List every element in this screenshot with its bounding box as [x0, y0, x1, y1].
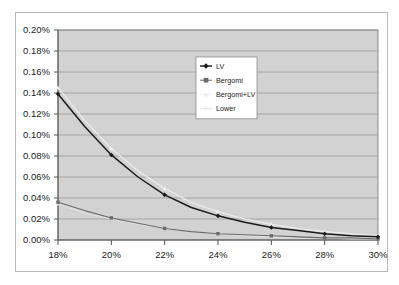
chart-legend: LVBergomiBergomi+LVLower — [196, 57, 257, 119]
y-axis-tick-label: 0.10% — [23, 129, 50, 140]
y-axis-tick-labels: 0.00%0.02%0.04%0.06%0.08%0.10%0.12%0.14%… — [23, 24, 50, 245]
series-data-point — [323, 236, 326, 239]
legend-label: Lower — [216, 104, 236, 113]
x-axis-tick-labels: 18%20%22%24%26%28%30% — [48, 249, 388, 260]
legend-label: Bergomi+LV — [216, 90, 255, 99]
legend-label: Bergomi — [216, 76, 243, 85]
series-data-point — [56, 201, 59, 204]
x-axis-tick-label: 18% — [48, 249, 68, 260]
x-axis-tick-label: 26% — [262, 249, 282, 260]
legend-marker-swatch — [204, 78, 209, 83]
x-axis-tick-label: 22% — [155, 249, 175, 260]
series-data-point — [270, 234, 273, 237]
y-axis-tick-label: 0.06% — [23, 171, 50, 182]
series-data-point — [110, 216, 113, 219]
y-axis-tick-label: 0.00% — [23, 234, 50, 245]
y-axis-tick-label: 0.02% — [23, 213, 50, 224]
y-axis-tick-label: 0.08% — [23, 150, 50, 161]
y-axis-tick-label: 0.16% — [23, 66, 50, 77]
y-axis-tick-label: 0.14% — [23, 87, 50, 98]
series-data-point — [216, 232, 219, 235]
y-axis-tick-label: 0.20% — [23, 24, 50, 35]
chart-figure: 0.00%0.02%0.04%0.06%0.08%0.10%0.12%0.14%… — [0, 0, 399, 285]
y-axis-tick-label: 0.18% — [23, 45, 50, 56]
legend-label: LV — [216, 62, 224, 71]
y-axis-tick-label: 0.04% — [23, 192, 50, 203]
x-axis-tick-label: 30% — [368, 249, 388, 260]
x-axis-tick-label: 20% — [102, 249, 122, 260]
y-axis-tick-label: 0.12% — [23, 108, 50, 119]
chart-plot-area: 0.00%0.02%0.04%0.06%0.08%0.10%0.12%0.14%… — [0, 0, 399, 285]
x-axis-tick-label: 28% — [315, 249, 335, 260]
series-data-point — [163, 227, 166, 230]
x-axis-tick-label: 24% — [208, 249, 228, 260]
